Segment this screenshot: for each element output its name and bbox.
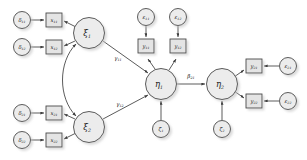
node-eps21: ε21 — [280, 58, 297, 75]
edge-xi2-x22 — [64, 133, 76, 139]
edge-xi2-x21 — [64, 114, 75, 119]
node-eps22: ε22 — [280, 93, 297, 110]
node-eps12: ε12 — [170, 9, 187, 26]
edge-xi1-x12 — [64, 41, 75, 46]
node-x12: x12 — [46, 40, 62, 54]
node-eps11: ε11 — [138, 9, 155, 26]
node-eta1: η1 — [146, 69, 177, 100]
node-delta21: δ21 — [14, 105, 31, 122]
node-x11: x11 — [46, 13, 62, 27]
node-delta11: δ11 — [14, 12, 31, 29]
path-label-gamma12: γ12 — [116, 101, 123, 108]
edge-eta1-y11 — [148, 59, 155, 69]
node-delta22: δ22 — [14, 132, 31, 149]
node-zeta2: ζ2 — [214, 121, 231, 138]
node-x21: x21 — [46, 106, 62, 120]
edge-eta1-y12 — [169, 59, 176, 70]
sem-path-diagram: γ11 γ12 β21 δ11 δ12 — [0, 0, 307, 160]
edge-covariance-xi1-xi2 — [63, 44, 77, 116]
node-y12: y12 — [170, 39, 186, 53]
node-xi1: ξ1 — [74, 18, 105, 49]
node-y22: y22 — [246, 94, 262, 108]
path-label-beta21: β21 — [186, 73, 194, 80]
node-y11: y11 — [138, 39, 154, 53]
node-xi2: ξ2 — [74, 112, 105, 143]
node-delta12: δ12 — [14, 39, 31, 56]
node-zeta1: ζ1 — [153, 121, 170, 138]
node-eta2: η2 — [207, 69, 238, 100]
node-y21: y21 — [246, 59, 262, 73]
edge-xi2-eta1 — [103, 95, 148, 119]
path-label-gamma11: γ11 — [114, 55, 121, 62]
node-x22: x22 — [46, 133, 62, 147]
diagram-canvas: γ11 γ12 β21 δ11 δ12 — [0, 0, 307, 160]
edge-xi1-x11 — [64, 21, 76, 27]
